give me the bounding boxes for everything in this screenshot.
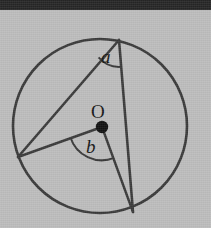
inscribed-angle-label-a: a xyxy=(101,47,111,66)
center-label-o: O xyxy=(91,102,105,121)
central-angle-label-b: b xyxy=(86,137,96,156)
chord-a-c xyxy=(119,40,133,212)
center-point-dot xyxy=(96,121,108,133)
circle-geometry-diagram xyxy=(0,0,211,228)
figure-canvas: a b O xyxy=(0,0,211,228)
